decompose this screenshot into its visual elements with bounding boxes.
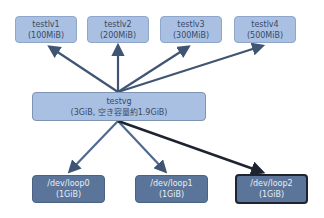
lv-node-testlv4: testlv4 (500MiB) [234,16,296,43]
pv-name: /dev/loop0 [47,178,89,189]
arrow-to-testlv4 [118,46,262,92]
pv-node-loop2: /dev/loop2 (1GiB) [235,174,308,204]
pv-size: (1GiB) [56,189,81,200]
arrow-to-testlv1 [50,47,118,92]
lv-size: (500MiB) [247,30,283,41]
lv-name: testlv3 [177,19,204,30]
pv-name: /dev/loop2 [250,178,292,189]
pv-size: (1GiB) [259,189,284,200]
vg-name: testvg [106,96,131,107]
vg-to-lv-arrows [50,46,262,92]
pv-node-loop1: /dev/loop1 (1GiB) [135,175,208,203]
lv-node-testlv3: testlv3 (300MiB) [160,16,222,43]
lvm-diagram: testlv1 (100MiB) testlv2 (200MiB) testlv… [0,0,324,218]
lv-size: (300MiB) [173,30,209,41]
lv-size: (100MiB) [28,30,64,41]
lv-node-testlv2: testlv2 (200MiB) [87,16,149,43]
arrow-to-testlv3 [118,47,188,92]
pv-size: (1GiB) [159,189,184,200]
pv-name: /dev/loop1 [150,178,192,189]
vg-node-testvg: testvg (3GiB, 空き容量約1.9GiB) [32,92,206,121]
lv-name: testlv2 [104,19,131,30]
lv-name: testlv1 [32,19,59,30]
vg-detail: (3GiB, 空き容量約1.9GiB) [71,107,168,118]
lv-name: testlv4 [251,19,278,30]
lv-size: (200MiB) [100,30,136,41]
arrow-to-loop2 [118,121,262,172]
lv-node-testlv1: testlv1 (100MiB) [15,16,77,43]
arrow-to-loop0 [70,121,118,171]
vg-to-pv-arrows [70,121,262,172]
pv-node-loop0: /dev/loop0 (1GiB) [32,175,105,203]
